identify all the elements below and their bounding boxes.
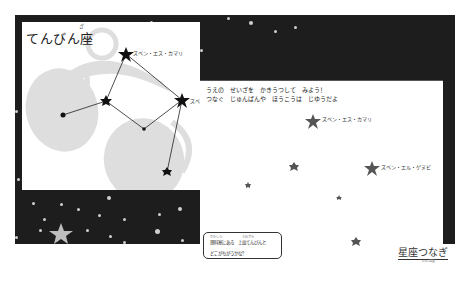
question-box: りかしつ うわざら 理科室にある 上皿てんびんと どこがちがうかな？ xyxy=(203,232,282,259)
reference-constellation-panel: てんびん座 ざ ズベン・エス・カマリ ズベン・エル・ゲヌビ xyxy=(22,22,200,190)
zubeneschamali-star-icon xyxy=(118,47,134,62)
star-icon xyxy=(61,113,66,118)
star-icon[interactable] xyxy=(336,195,342,200)
star-icon xyxy=(142,127,146,131)
sky-star-icon xyxy=(49,223,73,244)
star-icon[interactable] xyxy=(351,237,361,246)
libra-scale-illustration xyxy=(22,22,200,190)
title-ruby: ざ xyxy=(79,22,84,29)
zubenelgenubi-label: ズベン・エル・ゲヌビ xyxy=(190,97,200,104)
constellation-title: てんびん座 xyxy=(26,28,94,47)
zubenelgenubi-label: ズベン・エル・ゲヌビ xyxy=(381,163,431,170)
zubeneschamali-label: ズベン・エス・カマリ xyxy=(133,49,183,56)
drawing-area-panel[interactable]: うえの せいざを かきうつして みよう！ つなぐ じゅんばんや ほうこうは じゆ… xyxy=(200,80,443,256)
zubenelgenubi-star-icon[interactable] xyxy=(364,161,380,176)
seiza-tsunagi-logo: 星座つなぎ xyxy=(398,244,448,260)
logo-subtitle: Kids 図鑑 xyxy=(422,259,435,263)
zubeneschamali-label: ズベン・エス・カマリ xyxy=(322,115,372,122)
star-icon[interactable] xyxy=(245,182,251,188)
zubeneschamali-star-icon[interactable] xyxy=(305,114,321,129)
star-icon[interactable] xyxy=(289,162,299,171)
question-line-2: どこがちがうかな？ xyxy=(210,250,246,256)
question-line-1: 理科室にある 上皿てんびんと xyxy=(210,239,266,245)
